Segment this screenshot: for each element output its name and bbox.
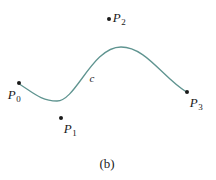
control-point-label-p1: P1 — [64, 122, 76, 135]
curve-name-label: c — [90, 73, 95, 84]
control-point-dot-p0 — [17, 81, 21, 85]
bezier-curve-figure: P0 P1 P2 P3 c (b) — [0, 0, 216, 180]
figure-caption: (b) — [99, 157, 114, 170]
control-point-label-p0: P0 — [8, 88, 20, 101]
bezier-curve-path — [19, 47, 187, 101]
control-point-dot-p3 — [185, 90, 189, 94]
control-point-label-p2: P2 — [113, 11, 125, 24]
control-point-label-p3: P3 — [190, 96, 202, 109]
curve-canvas — [0, 0, 216, 180]
control-point-dot-p2 — [107, 17, 111, 21]
control-point-dot-p1 — [59, 116, 63, 120]
